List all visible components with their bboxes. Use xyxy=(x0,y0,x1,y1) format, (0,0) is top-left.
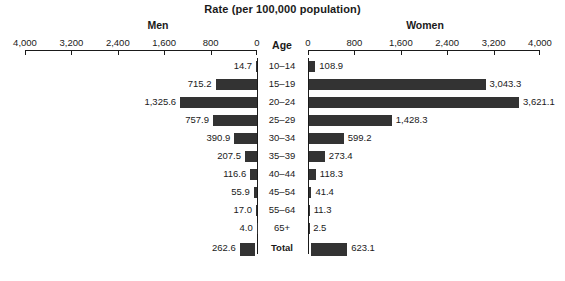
women-value-label: 11.3 xyxy=(314,204,332,216)
men-heading: Men xyxy=(118,19,198,31)
men-bar xyxy=(213,115,257,126)
chart-row: 262.6Total623.1 xyxy=(0,239,565,259)
axis-tick-label: 3,200 xyxy=(472,37,516,48)
chart-row: 715.215–193,043.3 xyxy=(0,76,565,94)
axis-tick-label: 4,000 xyxy=(3,37,47,48)
axis-tick-mark xyxy=(401,50,402,55)
men-bar-cell: 390.9 xyxy=(25,130,257,148)
women-bar xyxy=(309,169,316,180)
chart-row: 17.055–6411.3 xyxy=(0,202,565,220)
chart-title: Rate (per 100,000 population) xyxy=(0,3,565,15)
men-bar-cell: 207.5 xyxy=(25,148,257,166)
axis-tick-label: 0 xyxy=(286,37,330,48)
men-value-label: 55.9 xyxy=(231,186,250,198)
men-bar xyxy=(256,61,257,72)
women-bar-cell: 118.3 xyxy=(309,166,541,184)
women-value-label: 273.4 xyxy=(329,150,353,162)
men-value-label: 715.2 xyxy=(188,78,212,90)
men-bar-cell: 14.7 xyxy=(25,58,257,76)
men-bar-cell: 1,325.6 xyxy=(25,94,257,112)
chart-row: 4.065+2.5 xyxy=(0,220,565,238)
age-group-label: 15–19 xyxy=(258,78,306,90)
women-bar-cell: 273.4 xyxy=(309,148,541,166)
axis-tick-label: 2,400 xyxy=(96,37,140,48)
men-value-label: 17.0 xyxy=(234,204,253,216)
men-value-label: 1,325.6 xyxy=(144,96,176,108)
women-bar xyxy=(311,243,347,256)
axis-tick-mark xyxy=(164,50,165,55)
men-value-label: 4.0 xyxy=(240,222,253,234)
women-value-label: 623.1 xyxy=(351,242,375,254)
chart-row: 116.640–44118.3 xyxy=(0,166,565,184)
men-value-label: 207.5 xyxy=(217,150,241,162)
age-group-label: Total xyxy=(258,242,306,254)
women-heading: Women xyxy=(385,19,465,31)
chart-row: 207.535–39273.4 xyxy=(0,148,565,166)
axis-tick-label: 800 xyxy=(332,37,376,48)
plot-area: 14.710–14108.9715.215–193,043.31,325.620… xyxy=(0,58,565,259)
women-bar-cell: 108.9 xyxy=(309,58,541,76)
women-axis-start-cap xyxy=(308,50,309,55)
axis-tick-label: 800 xyxy=(189,37,233,48)
women-value-label: 3,043.3 xyxy=(490,78,522,90)
women-value-label: 3,621.1 xyxy=(523,96,555,108)
men-bar-cell: 17.0 xyxy=(25,202,257,220)
men-bar xyxy=(256,205,257,216)
age-group-label: 25–29 xyxy=(258,114,306,126)
age-group-label: 40–44 xyxy=(258,168,306,180)
men-bar-cell: 262.6 xyxy=(25,239,257,259)
men-value-label: 390.9 xyxy=(207,132,231,144)
women-bar xyxy=(309,133,344,144)
population-pyramid-chart: Rate (per 100,000 population) Men Women … xyxy=(0,0,565,281)
women-value-label: 41.4 xyxy=(315,186,334,198)
women-bar xyxy=(309,79,486,90)
axis-tick-mark xyxy=(354,50,355,55)
men-bar xyxy=(180,97,257,108)
men-bar-cell: 4.0 xyxy=(25,220,257,238)
men-value-label: 757.9 xyxy=(185,114,209,126)
axis-tick-mark xyxy=(494,50,495,55)
women-value-label: 599.2 xyxy=(348,132,372,144)
men-axis-start-cap xyxy=(25,50,26,55)
age-group-label: 10–14 xyxy=(258,60,306,72)
women-bar xyxy=(309,61,315,72)
women-bar-cell: 599.2 xyxy=(309,130,541,148)
women-value-label: 1,428.3 xyxy=(396,114,428,126)
women-bar xyxy=(309,187,311,198)
women-value-label: 108.9 xyxy=(319,60,343,72)
women-bar xyxy=(309,97,519,108)
chart-row: 14.710–14108.9 xyxy=(0,58,565,76)
men-axis-end-cap xyxy=(256,50,257,55)
women-bar xyxy=(309,151,325,162)
men-value-label: 116.6 xyxy=(223,168,246,180)
men-x-axis: 4,0003,2002,4001,6008000 xyxy=(25,37,257,57)
men-axis-line xyxy=(25,50,257,51)
women-bar-cell: 3,043.3 xyxy=(309,76,541,94)
men-bar-cell: 757.9 xyxy=(25,112,257,130)
age-group-label: 45–54 xyxy=(258,186,306,198)
chart-row: 757.925–291,428.3 xyxy=(0,112,565,130)
women-bar-cell: 1,428.3 xyxy=(309,112,541,130)
men-bar-cell: 715.2 xyxy=(25,76,257,94)
women-bar-cell: 11.3 xyxy=(309,202,541,220)
women-axis-line xyxy=(308,50,540,51)
axis-tick-label: 1,600 xyxy=(142,37,186,48)
women-value-label: 118.3 xyxy=(320,168,343,180)
chart-row: 1,325.620–243,621.1 xyxy=(0,94,565,112)
men-bar xyxy=(216,79,257,90)
age-group-label: 55–64 xyxy=(258,204,306,216)
men-bar-cell: 116.6 xyxy=(25,166,257,184)
men-bar xyxy=(245,151,257,162)
men-bar xyxy=(254,187,257,198)
women-bar-cell: 3,621.1 xyxy=(309,94,541,112)
axis-tick-mark xyxy=(211,50,212,55)
women-bar-cell: 2.5 xyxy=(309,220,541,238)
men-bar xyxy=(250,169,257,180)
chart-row: 390.930–34599.2 xyxy=(0,130,565,148)
chart-row: 55.945–5441.4 xyxy=(0,184,565,202)
age-group-label: 20–24 xyxy=(258,96,306,108)
axis-tick-mark xyxy=(118,50,119,55)
axis-tick-label: 1,600 xyxy=(379,37,423,48)
axis-tick-label: 2,400 xyxy=(425,37,469,48)
men-bar xyxy=(234,133,257,144)
